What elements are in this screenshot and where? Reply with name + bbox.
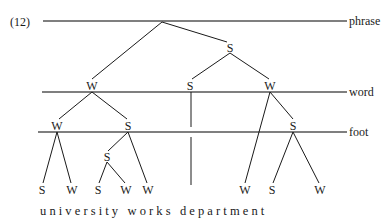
- leaf-leaf-5: W: [142, 184, 153, 196]
- node-s-word-1: S: [187, 80, 194, 92]
- branch-s-foot-2-to-leaf-7: [273, 132, 293, 183]
- leaf-leaf-2: W: [66, 184, 77, 196]
- leaf-leaf-4: W: [120, 184, 131, 196]
- branch-s-phrase-to-s-word-1: [192, 53, 230, 79]
- node-s-inner: S: [104, 151, 111, 163]
- node-s-foot-2: S: [290, 120, 297, 132]
- leaf-leaf-7: S: [269, 184, 276, 196]
- branch-w-word-1-to-w-foot-1: [59, 92, 92, 119]
- branch-s-inner-to-leaf-3: [99, 162, 107, 183]
- branch-w-foot-1-to-leaf-2: [57, 132, 71, 183]
- branch-s-phrase-to-w-word-2: [230, 53, 269, 79]
- branch-w-word-2-to-leaf-6: [245, 92, 270, 183]
- branch-s-foot-2-to-leaf-8: [293, 132, 319, 183]
- branch-lines-group: [43, 22, 319, 185]
- branch-w-word-2-to-s-foot-2: [270, 92, 293, 119]
- branch-s-foot-1-to-s-inner: [108, 132, 128, 151]
- node-s-phrase: S: [227, 42, 234, 54]
- node-w-foot-1: W: [51, 120, 62, 132]
- branch-s-inner-to-leaf-4: [107, 162, 125, 183]
- tier-lines-group: [38, 21, 347, 132]
- node-w-word-1: W: [86, 80, 97, 92]
- example-number: (12): [10, 15, 30, 30]
- branch-s-foot-1-to-leaf-5: [128, 132, 147, 183]
- node-s-foot-1: S: [125, 120, 132, 132]
- leaf-leaf-6: W: [239, 184, 250, 196]
- node-w-word-2: W: [264, 80, 275, 92]
- branch-w-word-1-to-s-foot-1: [92, 92, 127, 119]
- tier-label-phrase: phrase: [349, 14, 380, 29]
- tier-label-foot: foot: [349, 125, 368, 140]
- leaf-leaf-8: W: [314, 184, 325, 196]
- leaf-leaf-1: S: [39, 184, 46, 196]
- tree-diagram-svg: [0, 0, 392, 222]
- branch-root-to-s-phrase: [162, 22, 227, 42]
- tier-label-word: word: [349, 85, 374, 100]
- branch-root-to-w-word-1: [92, 22, 162, 79]
- leaf-leaf-3: S: [95, 184, 102, 196]
- branch-w-foot-1-to-leaf-1: [43, 132, 57, 183]
- metrical-tree-figure: (12) phrasewordfoot SWSWWSSS SWSWWWSW u …: [0, 0, 392, 222]
- utterance-text: u n i v e r s i t y w o r k s d e p a r …: [40, 205, 264, 218]
